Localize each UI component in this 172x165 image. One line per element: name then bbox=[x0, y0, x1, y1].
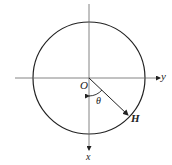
origin-label: O bbox=[80, 80, 88, 91]
vector-label: H bbox=[131, 113, 140, 124]
angle-label: θ bbox=[96, 96, 101, 106]
x-axis-label: x bbox=[86, 152, 90, 162]
vector-h bbox=[89, 78, 128, 115]
y-axis-label: y bbox=[161, 71, 166, 82]
diagram-canvas: O θ H y x bbox=[0, 0, 172, 165]
